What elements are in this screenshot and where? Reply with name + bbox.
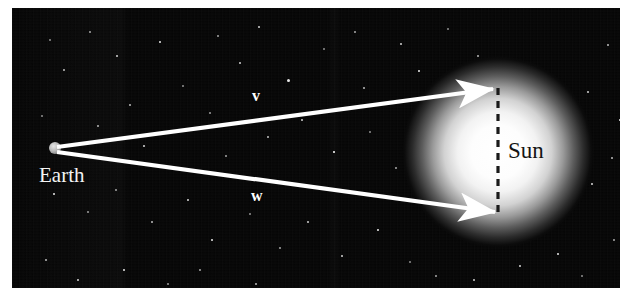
vector-v-arrow xyxy=(57,89,493,147)
vector-overlay xyxy=(12,8,620,288)
space-background: Earth Sun v w xyxy=(12,8,620,288)
vector-w-arrow xyxy=(57,152,495,212)
figure-canvas: Earth Sun v w xyxy=(0,0,622,302)
